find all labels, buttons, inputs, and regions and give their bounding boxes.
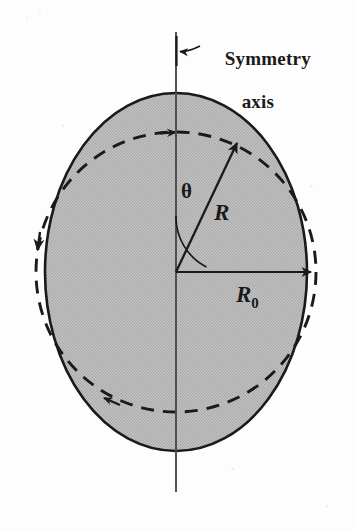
sphere-top-arrowhead bbox=[160, 132, 176, 133]
symmetry-axis-label-line2: axis bbox=[205, 91, 311, 112]
figure-canvas: Symmetry axis θ R R0 bbox=[0, 0, 355, 531]
theta-angle-label: θ bbox=[181, 180, 192, 204]
symmetry-axis-label-line1: Symmetry bbox=[225, 48, 311, 69]
symmetry-axis-label: Symmetry axis bbox=[205, 27, 311, 155]
radius-r0-base: R bbox=[236, 282, 251, 307]
symmetry-axis-leader-arrow bbox=[180, 46, 200, 52]
radius-r0-label: R0 bbox=[236, 282, 259, 311]
radius-r-label: R bbox=[214, 200, 229, 226]
radius-r0-subscript: 0 bbox=[251, 295, 259, 311]
symmetry-axis-leader bbox=[177, 36, 201, 66]
